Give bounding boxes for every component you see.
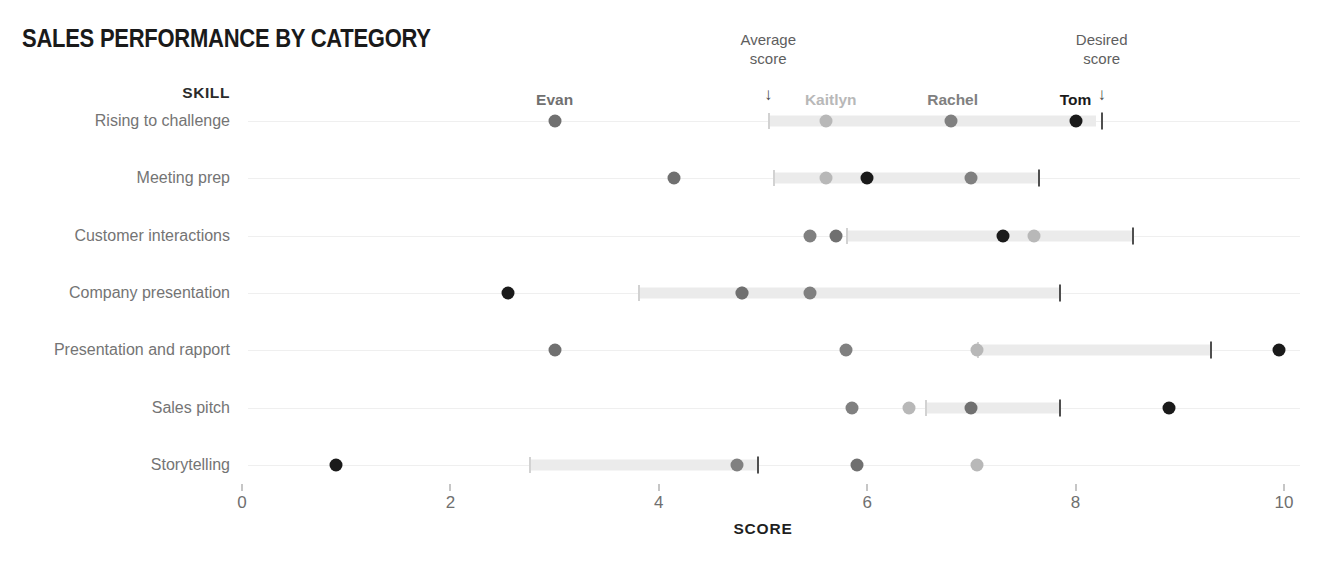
data-point-tom[interactable] — [861, 172, 874, 185]
data-point-evan[interactable] — [736, 287, 749, 300]
x-axis-tick — [867, 484, 868, 491]
x-axis-tick — [450, 484, 451, 491]
data-point-tom[interactable] — [329, 459, 342, 472]
row-label-presentation-and-rapport: Presentation and rapport — [0, 341, 230, 359]
x-axis-tick — [658, 484, 659, 491]
average-score-bar — [638, 288, 1060, 299]
data-point-rachel[interactable] — [803, 287, 816, 300]
data-point-rachel[interactable] — [803, 230, 816, 243]
data-point-evan[interactable] — [668, 172, 681, 185]
average-score-bar — [768, 116, 1096, 127]
desired-score-marker — [1101, 113, 1103, 130]
x-axis-title: SCORE — [733, 520, 792, 538]
data-point-evan[interactable] — [548, 115, 561, 128]
x-axis-tick-label: 6 — [862, 493, 871, 513]
row-label-meeting-prep: Meeting prep — [0, 169, 230, 187]
average-score-bar-start — [529, 457, 531, 473]
x-axis-tick-label: 0 — [237, 493, 246, 513]
data-point-evan[interactable] — [548, 344, 561, 357]
x-axis-tick-label: 8 — [1071, 493, 1080, 513]
data-point-tom[interactable] — [1163, 402, 1176, 415]
average-score-bar — [846, 231, 1133, 242]
desired-score-marker — [1059, 285, 1061, 302]
desired-score-marker — [1038, 170, 1040, 187]
data-point-evan[interactable] — [829, 230, 842, 243]
legend-label-rachel: Rachel — [927, 91, 978, 109]
desired-score-marker — [1210, 342, 1212, 359]
row-baseline — [248, 236, 1300, 237]
average-score-bar-start — [638, 285, 640, 301]
data-point-kaitlyn[interactable] — [1027, 230, 1040, 243]
data-point-rachel[interactable] — [965, 172, 978, 185]
data-point-kaitlyn[interactable] — [819, 172, 832, 185]
row-label-storytelling: Storytelling — [0, 456, 230, 474]
row-label-customer-interactions: Customer interactions — [0, 227, 230, 245]
legend-label-tom: Tom — [1060, 91, 1092, 109]
desired-score-marker — [1132, 228, 1134, 245]
data-point-tom[interactable] — [996, 230, 1009, 243]
x-axis-tick — [1284, 484, 1285, 491]
data-point-tom[interactable] — [1069, 115, 1082, 128]
data-point-evan[interactable] — [965, 402, 978, 415]
data-point-rachel[interactable] — [944, 115, 957, 128]
x-axis-tick-label: 2 — [446, 493, 455, 513]
x-axis-tick-label: 10 — [1275, 493, 1294, 513]
desired-score-annotation-arrow: ↓ — [1097, 86, 1106, 103]
average-score-bar — [529, 460, 758, 471]
data-point-rachel[interactable] — [845, 402, 858, 415]
data-point-rachel[interactable] — [730, 459, 743, 472]
average-score-annotation: Averagescore — [740, 30, 796, 68]
desired-score-annotation-line2: score — [1083, 50, 1120, 67]
data-point-kaitlyn[interactable] — [970, 459, 983, 472]
data-point-tom[interactable] — [1272, 344, 1285, 357]
desired-score-marker — [757, 457, 759, 474]
average-score-annotation-arrow: ↓ — [764, 86, 773, 103]
average-score-annotation-line2: score — [750, 50, 787, 67]
row-label-sales-pitch: Sales pitch — [0, 399, 230, 417]
chart-container: SALES PERFORMANCE BY CATEGORY SKILL Risi… — [0, 0, 1317, 562]
data-point-tom[interactable] — [501, 287, 514, 300]
data-point-kaitlyn[interactable] — [902, 402, 915, 415]
average-score-bar — [773, 173, 1039, 184]
average-score-bar-start — [773, 170, 775, 186]
legend-label-evan: Evan — [536, 91, 573, 109]
average-score-bar — [925, 403, 1060, 414]
data-point-rachel[interactable] — [840, 344, 853, 357]
x-axis-tick — [1075, 484, 1076, 491]
average-score-bar-start — [925, 400, 927, 416]
row-baseline — [248, 408, 1300, 409]
data-point-kaitlyn[interactable] — [819, 115, 832, 128]
x-axis-tick — [242, 484, 243, 491]
data-point-evan[interactable] — [850, 459, 863, 472]
x-axis-tick-label: 4 — [654, 493, 663, 513]
average-score-bar-start — [768, 113, 770, 129]
average-score-bar — [977, 345, 1211, 356]
row-baseline — [248, 465, 1300, 466]
plot-area: Rising to challengeMeeting prepCustomer … — [0, 0, 1317, 562]
average-score-bar-start — [846, 228, 848, 244]
desired-score-annotation: Desiredscore — [1076, 30, 1128, 68]
data-point-kaitlyn[interactable] — [970, 344, 983, 357]
row-label-company-presentation: Company presentation — [0, 284, 230, 302]
legend-label-kaitlyn: Kaitlyn — [805, 91, 857, 109]
row-label-rising-to-challenge: Rising to challenge — [0, 112, 230, 130]
desired-score-marker — [1059, 400, 1061, 417]
